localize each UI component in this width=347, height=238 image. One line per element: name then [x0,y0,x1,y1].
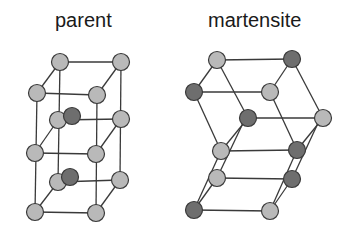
atom-light [262,203,279,220]
parent-atoms [27,54,130,222]
atom-light [209,170,226,187]
atom-dark [284,51,301,68]
atom-light [88,146,105,163]
atom-dark [186,84,203,101]
atom-dark [62,169,79,186]
atom-light [112,172,129,189]
atom-light [213,143,230,160]
atom-light [88,205,105,222]
martensite-bonds [194,59,323,211]
atom-dark [284,171,301,188]
atom-light [89,87,106,104]
atom-light [113,111,130,128]
atom-light [27,204,44,221]
atom-dark [240,110,257,127]
atom-dark [289,142,306,159]
martensite-lattice [186,51,332,220]
atom-light [315,110,332,127]
atom-light [113,54,130,71]
atom-light [52,54,69,71]
parent-bonds [35,62,121,213]
parent-lattice [27,54,130,222]
atom-dark [64,108,81,125]
atom-light [27,145,44,162]
atom-dark [186,202,203,219]
lattice-diagram [0,0,347,238]
atom-light [262,84,279,101]
atom-light [29,85,46,102]
atom-light [209,52,226,69]
